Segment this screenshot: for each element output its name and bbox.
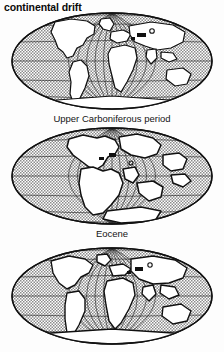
globe-panel-2 <box>11 127 213 225</box>
world-map-upper-carboniferous <box>11 127 213 225</box>
caption-upper-carboniferous: Upper Carboniferous period <box>0 113 224 124</box>
page-title: continental drift <box>4 1 82 13</box>
world-map-present-day <box>11 12 213 110</box>
globe-panel-3 <box>11 247 213 352</box>
globe-panel-1 <box>11 12 213 110</box>
continental-drift-figure: continental drift <box>0 0 224 352</box>
caption-eocene: Eocene <box>0 228 224 239</box>
world-map-eocene <box>11 247 213 345</box>
